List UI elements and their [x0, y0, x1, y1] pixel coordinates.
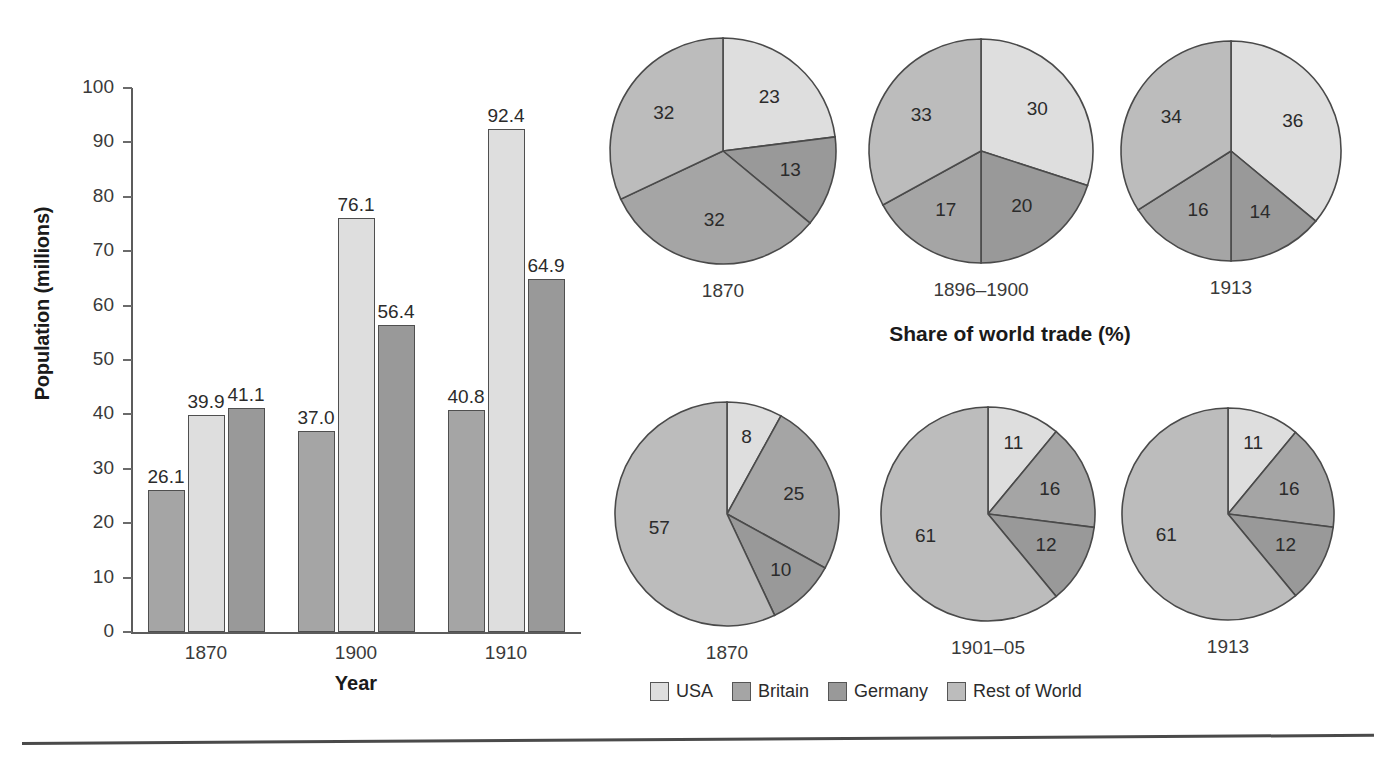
pie-slice-value: 17 [935, 199, 956, 220]
legend-swatch [947, 682, 966, 701]
pie-slice-value: 61 [915, 525, 936, 546]
bar [228, 408, 265, 632]
pie-caption: 1901–05 [888, 637, 1088, 659]
bar-value-label: 76.1 [326, 194, 386, 216]
pie-chart: 30201733 [866, 36, 1096, 266]
legend-swatch [650, 682, 669, 701]
pie-chart: 23133232 [607, 35, 839, 267]
pie-caption: 1870 [623, 280, 823, 302]
y-tick-label: 0 [66, 620, 114, 642]
bar-value-label: 64.9 [516, 255, 576, 277]
chart-legend: USABritainGermanyRest of World [650, 681, 1092, 702]
figure-canvas: Population (millions) 010203040506070809… [0, 0, 1390, 773]
bar [188, 415, 225, 632]
pie-slice-value: 11 [1004, 432, 1024, 453]
y-tick-label: 40 [66, 402, 114, 424]
pie-caption: 1896–1900 [881, 279, 1081, 301]
pie-slice-value: 33 [911, 104, 932, 125]
legend-label: Britain [758, 681, 809, 702]
pie-svg: 23133232 [607, 35, 839, 267]
y-tick-label: 20 [66, 511, 114, 533]
bar [528, 279, 565, 632]
pie-slice-value: 25 [783, 483, 804, 504]
x-axis-line [131, 632, 581, 634]
x-tick-label: 1900 [316, 642, 396, 664]
bar [488, 129, 525, 632]
legend-item: USA [650, 681, 713, 702]
y-tick-label: 60 [66, 294, 114, 316]
pie-slice-value: 16 [1279, 478, 1300, 499]
bar-value-label: 56.4 [366, 301, 426, 323]
pie-slice-value: 14 [1249, 201, 1271, 222]
pie-slice-value: 36 [1282, 110, 1303, 131]
pie-caption: 1913 [1128, 636, 1328, 658]
legend-item: Rest of World [947, 681, 1082, 702]
legend-label: Rest of World [973, 681, 1082, 702]
bar [338, 218, 375, 632]
y-tick-label: 70 [66, 239, 114, 261]
pie-slice-value: 32 [704, 209, 725, 230]
legend-swatch [828, 682, 847, 701]
bar [448, 410, 485, 632]
pie-caption: 1870 [627, 642, 827, 664]
pie-svg: 30201733 [866, 36, 1096, 266]
pie-slice-value: 13 [780, 159, 801, 180]
footer-rule [22, 734, 1374, 745]
y-tick-label: 10 [66, 566, 114, 588]
bars-plot-area: 26.139.941.137.076.156.440.892.464.9 [131, 88, 581, 632]
pie-slice-value: 30 [1027, 98, 1048, 119]
pie-slice-value: 16 [1188, 199, 1209, 220]
bar [148, 490, 185, 632]
pie-slice-value: 57 [649, 517, 670, 538]
bar [378, 325, 415, 632]
legend-label: Germany [854, 681, 928, 702]
legend-item: Germany [828, 681, 928, 702]
pies-section-title: Share of world trade (%) [640, 322, 1380, 346]
pie-svg: 8251057 [612, 399, 842, 629]
pie-slice-value: 34 [1161, 106, 1183, 127]
pie-chart: 36141634 [1118, 38, 1344, 264]
x-axis-title: Year [131, 672, 581, 695]
x-tick-label: 1870 [166, 642, 246, 664]
population-bar-chart: Population (millions) 010203040506070809… [0, 0, 620, 700]
pie-svg: 36141634 [1118, 38, 1344, 264]
bar [298, 431, 335, 632]
pie-slice-value: 12 [1036, 534, 1057, 555]
legend-item: Britain [732, 681, 809, 702]
x-tick-label: 1910 [466, 642, 546, 664]
pie-svg: 11161261 [878, 404, 1098, 624]
pie-slice-value: 20 [1011, 195, 1032, 216]
pie-chart: 11161261 [1119, 405, 1337, 623]
bar-value-label: 92.4 [476, 105, 536, 127]
pie-slice-value: 10 [770, 559, 791, 580]
pie-chart: 11161261 [878, 404, 1098, 624]
pie-chart: 8251057 [612, 399, 842, 629]
legend-swatch [732, 682, 751, 701]
bar-value-label: 41.1 [216, 384, 276, 406]
y-axis-title: Population (millions) [31, 154, 54, 454]
pie-slice-value: 23 [759, 86, 780, 107]
y-tick-label: 30 [66, 457, 114, 479]
pie-slice-value: 61 [1156, 524, 1177, 545]
y-tick-label: 50 [66, 348, 114, 370]
pie-slice-value: 12 [1275, 534, 1296, 555]
pie-slice-value: 8 [741, 426, 752, 447]
pie-slice-value: 16 [1039, 478, 1060, 499]
legend-label: USA [676, 681, 713, 702]
pie-slice-value: 11 [1243, 432, 1263, 453]
pie-caption: 1913 [1131, 277, 1331, 299]
pie-svg: 11161261 [1119, 405, 1337, 623]
y-tick-label: 90 [66, 130, 114, 152]
y-tick-label: 80 [66, 185, 114, 207]
pie-slice-value: 32 [653, 102, 674, 123]
y-tick-label: 100 [66, 76, 114, 98]
